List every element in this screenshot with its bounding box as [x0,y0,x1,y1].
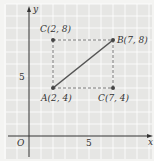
label-c-bottom: C(7, 4) [98,93,130,103]
point-b [111,38,115,42]
point-c-bottom [111,86,115,90]
label-a: A(2, 4) [40,93,72,103]
label-c-top: C(2, 8) [40,24,72,34]
y-tick-5: 5 [19,72,25,82]
x-axis-label: x [148,137,153,147]
coordinate-plane: y x O 5 5 C(2, 8) B(7, 8) A(2, 4) C(7, 4… [0,0,154,161]
origin-label: O [17,138,25,148]
x-tick-5: 5 [86,138,92,148]
point-a [51,86,55,90]
label-b: B(7, 8) [116,35,148,45]
point-c-top [51,38,55,42]
y-axis-label: y [32,4,39,14]
